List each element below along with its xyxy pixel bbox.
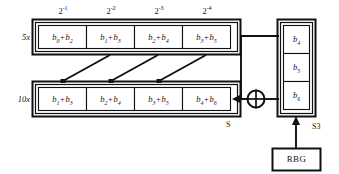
weight-label-2: 2-3 (148, 7, 170, 16)
bottom-cell-3: b4+b6 (182, 95, 231, 104)
weight-label-1: 2-2 (100, 7, 122, 16)
row-label-5x: 5x (10, 33, 30, 42)
bottom-cell-1: b2+b4 (86, 95, 135, 104)
side-cell-b4: b4 (283, 35, 310, 44)
side-cell-b5: b5 (283, 63, 310, 72)
diagram-canvas: 2-1 2-2 2-3 2-4 5x 10x b0+b2 b1+b3 b2+b4… (0, 0, 339, 174)
top-cell-2: b2+b4 (134, 33, 183, 42)
label-s3: S3 (312, 123, 320, 131)
xor-gate-symbol (247, 90, 266, 109)
weight-label-0: 2-1 (52, 7, 74, 16)
side-cell-b6: b6 (283, 91, 310, 100)
bottom-cell-2: b3+b5 (134, 95, 183, 104)
top-cell-1: b1+b3 (86, 33, 135, 42)
weight-label-3: 2-4 (196, 7, 218, 16)
rbg-label: RBG (272, 155, 321, 164)
label-sum-output: S (226, 121, 230, 129)
row-label-10x: 10x (5, 95, 30, 104)
rbg-to-side-register-wire (292, 116, 300, 149)
b4-feedback-wire (240, 36, 279, 99)
diagonal-connections (63, 55, 206, 81)
top-cell-0: b0+b2 (38, 33, 87, 42)
top-cell-3: b3+b5 (182, 33, 231, 42)
bottom-cell-0: b1+b3 (38, 95, 87, 104)
diagram-vector-layer (0, 0, 339, 174)
